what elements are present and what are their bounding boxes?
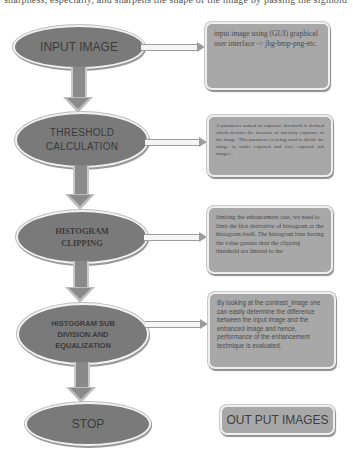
step-input-image: INPUT IMAGE	[13, 25, 145, 69]
arrow-down-icon	[63, 67, 93, 113]
arrow-right-icon	[145, 321, 200, 328]
step-stop: STOP	[25, 402, 151, 446]
cut-off-paragraph-text: sharpness, especially, and sharpens the …	[4, 0, 349, 5]
arrow-down-icon	[65, 261, 95, 304]
step-label-line-2: CALCULATION	[46, 140, 119, 154]
step-label-line-2: CLIPPING	[55, 237, 109, 249]
note-input-image: input image using (GUI) graphical user i…	[205, 22, 330, 90]
step-label-line-1: THRESHOLD	[46, 126, 119, 140]
step-label-line-1: HISTOGRAM SUB	[51, 318, 115, 329]
step-label: INPUT IMAGE	[40, 40, 118, 54]
arrow-right-icon	[145, 139, 199, 146]
output-images-box: OUT PUT IMAGES	[220, 405, 335, 435]
note-histogram-sub-division: By looking at the contrast_image one can…	[208, 292, 336, 369]
step-label-line-2: DIVISION AND	[51, 329, 115, 340]
step-label-line-3: EQUALIZATION	[51, 340, 115, 351]
step-histogram-sub-division: HISTOGRAM SUB DIVISION AND EQUALIZATION	[17, 303, 149, 365]
note-threshold-calculation: A parameter named as exposure threshold …	[207, 115, 333, 177]
arrow-down-icon	[66, 362, 96, 404]
arrow-down-icon	[65, 166, 95, 211]
arrow-right-icon	[144, 234, 199, 241]
step-histogram-clipping: HISTOGRAM CLIPPING	[16, 210, 148, 264]
note-histogram-clipping: limiting the enhancement rate, we need t…	[207, 206, 333, 274]
arrow-right-icon	[141, 44, 197, 51]
step-label: STOP	[72, 417, 104, 431]
step-threshold-calculation: THRESHOLD CALCULATION	[15, 112, 149, 168]
step-label-line-1: HISTOGRAM	[55, 225, 109, 237]
